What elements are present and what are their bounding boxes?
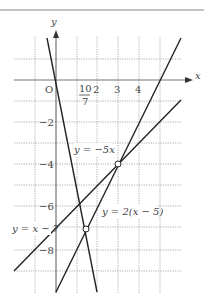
intersection-point-10-7: [83, 226, 89, 232]
y-tick-neg4: −4: [39, 159, 54, 170]
label-y-eq-neg5x: y = −5x: [73, 144, 115, 155]
y-tick-neg2: −2: [39, 117, 54, 128]
y-tick-neg6: −6: [39, 201, 54, 212]
x-axis-arrow-icon: [185, 77, 193, 83]
x-tick-4: 4: [135, 84, 141, 95]
intersection-point-3-neg4: [115, 161, 121, 167]
y-axis-arrow-icon: [53, 30, 59, 38]
origin-label: O: [45, 84, 53, 95]
y-tick-neg8: −8: [39, 245, 54, 256]
x-tick-3: 3: [114, 84, 120, 95]
label-y-eq-2-x-minus-5: y = 2(x − 5): [101, 206, 163, 217]
x-axis-label: x: [195, 70, 201, 81]
y-axis-label: y: [50, 16, 57, 27]
x-tick-fraction-denominator: 7: [82, 96, 88, 107]
label-y-eq-x-minus-7: y = x − 7: [11, 223, 60, 234]
x-tick-fraction-numerator: 10: [79, 83, 92, 94]
line-y-eq-neg5x: [47, 38, 97, 292]
x-tick-2: 2: [93, 84, 99, 95]
coordinate-plane: x y O 10 7 2 3 4 −2 −4 −6 −8 y = −5x y =…: [0, 0, 204, 303]
